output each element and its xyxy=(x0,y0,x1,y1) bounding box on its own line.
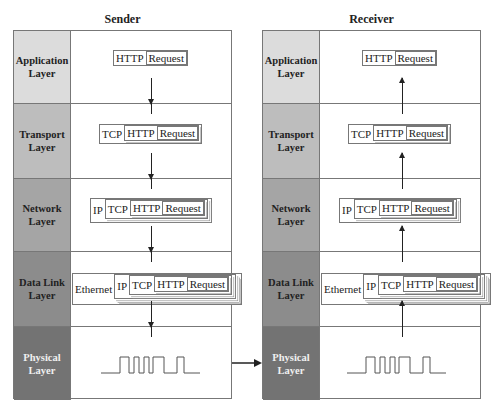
encapsulated-http: Request xyxy=(187,277,228,291)
packet-network: IPTCPHTTPRequest xyxy=(90,198,212,223)
label-line1: Application xyxy=(16,54,69,67)
encapsulated-tcp: HTTPRequest xyxy=(130,200,205,216)
header-tcp: TCP xyxy=(130,276,154,294)
layer-content-network: IPTCPHTTPRequest xyxy=(319,179,480,251)
down-arrow-icon xyxy=(151,153,152,179)
payload-request: Request xyxy=(158,127,197,139)
label-line1: Transport xyxy=(268,128,313,141)
layer-content-application: HTTPRequest xyxy=(70,31,231,103)
encapsulated-ethernet: IPTCPHTTPRequest xyxy=(114,274,236,299)
header-http: HTTP xyxy=(114,51,146,65)
up-arrow-icon xyxy=(402,226,403,252)
layer-row-network: NetworkLayerIPTCPHTTPRequest xyxy=(14,179,231,252)
layer-label-text: ApplicationLayer xyxy=(16,54,69,80)
encapsulated-http: Request xyxy=(436,277,477,291)
layer-content-physical xyxy=(70,327,231,400)
encapsulated-ethernet: IPTCPHTTPRequest xyxy=(363,274,485,299)
down-arrow-icon xyxy=(151,226,152,252)
packet-data-link: EthernetIPTCPHTTPRequest xyxy=(321,273,491,305)
layer-label-text: PhysicalLayer xyxy=(23,351,60,377)
up-arrow-icon xyxy=(402,78,403,104)
layer-label-text: NetworkLayer xyxy=(271,202,310,228)
encapsulated-ip: TCPHTTPRequest xyxy=(129,275,232,295)
layer-row-transport: TransportLayerTCPHTTPRequest xyxy=(263,104,480,179)
header-http: HTTP xyxy=(131,201,163,215)
payload-request: Request xyxy=(163,202,202,214)
payload-request: Request xyxy=(407,127,446,139)
header-http: HTTP xyxy=(125,126,157,140)
payload-request: Request xyxy=(437,278,476,290)
packet-application: HTTPRequest xyxy=(362,50,437,66)
arrow-stem xyxy=(151,104,152,114)
layer-label-data-link: Data LinkLayer xyxy=(263,252,320,326)
label-line1: Physical xyxy=(23,351,60,364)
payload-request: Request xyxy=(147,52,186,64)
header-ip: IP xyxy=(91,199,105,222)
layer-content-transport: TCPHTTPRequest xyxy=(319,104,480,178)
encapsulated-http: Request xyxy=(157,126,198,140)
encapsulated-tcp: HTTPRequest xyxy=(154,276,229,292)
label-line1: Network xyxy=(22,202,61,215)
encapsulated-tcp: HTTPRequest xyxy=(379,200,454,216)
layer-label-network: NetworkLayer xyxy=(14,179,71,251)
packet-transport: TCPHTTPRequest xyxy=(99,124,202,144)
label-line1: Network xyxy=(271,202,310,215)
arrow-stem xyxy=(402,327,403,337)
encapsulated-tcp: HTTPRequest xyxy=(124,125,199,141)
label-line1: Physical xyxy=(272,351,309,364)
encapsulated-http: Request xyxy=(395,51,436,65)
down-arrow-icon xyxy=(151,301,152,327)
header-http: HTTP xyxy=(363,51,395,65)
layer-label-application: ApplicationLayer xyxy=(14,31,71,103)
label-line2: Layer xyxy=(272,364,309,377)
layer-label-text: TransportLayer xyxy=(268,128,313,154)
arrow-stem xyxy=(402,252,403,262)
label-line2: Layer xyxy=(23,364,60,377)
layer-row-physical: PhysicalLayer xyxy=(14,327,231,400)
label-line2: Layer xyxy=(22,215,61,228)
receiver-title: Receiver xyxy=(262,12,481,27)
sender-title: Sender xyxy=(13,12,232,27)
layer-label-text: TransportLayer xyxy=(19,128,64,154)
layer-label-physical: PhysicalLayer xyxy=(14,327,71,400)
right-arrow-icon xyxy=(232,358,262,368)
header-tcp: TCP xyxy=(100,125,124,143)
header-ethernet: Ethernet xyxy=(322,274,363,304)
label-line2: Layer xyxy=(19,141,64,154)
layer-row-application: ApplicationLayerHTTPRequest xyxy=(14,31,231,104)
encapsulated-tcp: HTTPRequest xyxy=(403,276,478,292)
down-arrow-icon xyxy=(151,78,152,104)
packet-transport: TCPHTTPRequest xyxy=(348,124,451,144)
layer-label-network: NetworkLayer xyxy=(263,179,320,251)
label-line2: Layer xyxy=(268,141,313,154)
layer-label-application: ApplicationLayer xyxy=(263,31,320,103)
header-ethernet: Ethernet xyxy=(73,274,114,304)
label-line2: Layer xyxy=(19,289,65,302)
sender-stack: ApplicationLayerHTTPRequestTransportLaye… xyxy=(13,30,232,399)
label-line1: Data Link xyxy=(19,276,65,289)
square-wave-icon xyxy=(101,357,201,377)
layer-label-physical: PhysicalLayer xyxy=(263,327,320,400)
layer-content-data-link: EthernetIPTCPHTTPRequest xyxy=(70,252,231,326)
header-tcp: TCP xyxy=(355,200,379,218)
layer-content-physical xyxy=(319,327,480,400)
layer-row-data-link: Data LinkLayerEthernetIPTCPHTTPRequest xyxy=(263,252,480,327)
layer-row-application: ApplicationLayerHTTPRequest xyxy=(263,31,480,104)
payload-request: Request xyxy=(396,52,435,64)
header-tcp: TCP xyxy=(349,125,373,143)
arrow-stem xyxy=(151,179,152,189)
layer-label-data-link: Data LinkLayer xyxy=(14,252,71,326)
up-arrow-icon xyxy=(402,301,403,327)
header-tcp: TCP xyxy=(379,276,403,294)
arrow-stem xyxy=(402,104,403,114)
header-http: HTTP xyxy=(404,277,436,291)
layer-label-text: Data LinkLayer xyxy=(268,276,314,302)
encapsulated-ip: TCPHTTPRequest xyxy=(378,275,481,295)
layer-row-transport: TransportLayerTCPHTTPRequest xyxy=(14,104,231,179)
layer-label-text: NetworkLayer xyxy=(22,202,61,228)
layer-row-physical: PhysicalLayer xyxy=(263,327,480,400)
layer-content-application: HTTPRequest xyxy=(319,31,480,103)
encapsulated-ip: TCPHTTPRequest xyxy=(354,199,457,219)
encapsulated-http: Request xyxy=(146,51,187,65)
layer-label-text: PhysicalLayer xyxy=(272,351,309,377)
